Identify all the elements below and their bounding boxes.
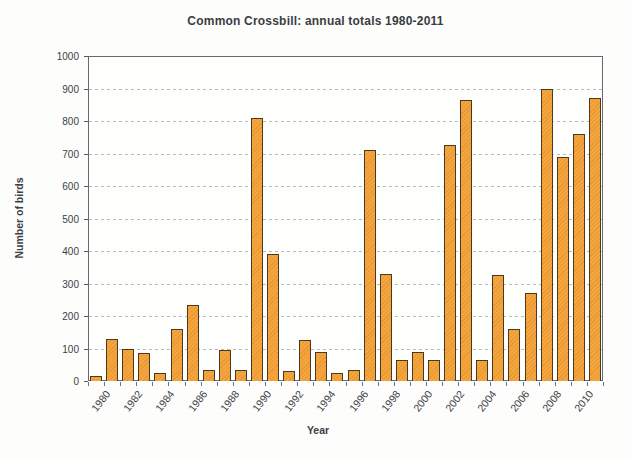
bar-1983 bbox=[138, 353, 150, 381]
y-axis-tick-label-900: 900 bbox=[39, 84, 79, 95]
bar-1994 bbox=[315, 352, 327, 381]
x-tick bbox=[426, 382, 427, 386]
bar-2000 bbox=[412, 352, 424, 381]
x-tick bbox=[249, 382, 250, 386]
x-tick bbox=[539, 382, 540, 386]
y-tick-900 bbox=[84, 89, 88, 90]
bar-2005 bbox=[492, 275, 504, 381]
x-tick bbox=[88, 382, 89, 386]
x-tick bbox=[120, 382, 121, 386]
x-tick bbox=[442, 382, 443, 386]
x-tick bbox=[217, 382, 218, 386]
gridline-900 bbox=[89, 89, 602, 90]
x-tick bbox=[104, 382, 105, 386]
x-tick bbox=[378, 382, 379, 386]
x-tick bbox=[136, 382, 137, 386]
x-tick bbox=[152, 382, 153, 386]
bar-1980 bbox=[90, 376, 102, 381]
y-tick-100 bbox=[84, 349, 88, 350]
y-axis-tick-label-0: 0 bbox=[39, 376, 79, 387]
gridline-400 bbox=[89, 251, 602, 252]
bar-1982 bbox=[122, 349, 134, 382]
x-tick bbox=[474, 382, 475, 386]
y-tick-800 bbox=[84, 121, 88, 122]
x-tick bbox=[362, 382, 363, 386]
x-tick bbox=[265, 382, 266, 386]
x-tick bbox=[523, 382, 524, 386]
y-tick-400 bbox=[84, 251, 88, 252]
x-tick bbox=[490, 382, 491, 386]
bar-1999 bbox=[396, 360, 408, 381]
bar-1991 bbox=[267, 254, 279, 381]
bar-2009 bbox=[557, 157, 569, 381]
x-tick bbox=[313, 382, 314, 386]
y-axis-tick-label-600: 600 bbox=[39, 181, 79, 192]
bar-1997 bbox=[364, 150, 376, 381]
bar-1992 bbox=[283, 371, 295, 381]
y-tick-200 bbox=[84, 316, 88, 317]
x-tick bbox=[571, 382, 572, 386]
bar-1989 bbox=[235, 370, 247, 381]
y-axis-tick-label-1000: 1000 bbox=[39, 51, 79, 62]
bar-2001 bbox=[428, 360, 440, 381]
y-axis-title: Number of birds bbox=[13, 158, 27, 278]
y-tick-1000 bbox=[84, 56, 88, 57]
bar-2002 bbox=[444, 145, 456, 381]
bar-1988 bbox=[219, 350, 231, 381]
bar-2003 bbox=[460, 100, 472, 381]
scanned-bar-chart-figure: Common Crossbill: annual totals 1980-201… bbox=[0, 0, 631, 460]
x-tick bbox=[233, 382, 234, 386]
x-tick bbox=[329, 382, 330, 386]
y-tick-300 bbox=[84, 284, 88, 285]
gridline-500 bbox=[89, 219, 602, 220]
bar-1985 bbox=[171, 329, 183, 381]
bar-1993 bbox=[299, 340, 311, 381]
x-tick bbox=[297, 382, 298, 386]
x-tick bbox=[394, 382, 395, 386]
x-tick bbox=[168, 382, 169, 386]
gridline-300 bbox=[89, 284, 602, 285]
y-axis-tick-label-500: 500 bbox=[39, 214, 79, 225]
bar-2007 bbox=[525, 293, 537, 381]
bar-2008 bbox=[541, 89, 553, 382]
bar-1990 bbox=[251, 118, 263, 381]
y-axis-tick-label-700: 700 bbox=[39, 149, 79, 160]
x-axis-title: Year bbox=[258, 424, 378, 436]
chart-title: Common Crossbill: annual totals 1980-201… bbox=[0, 14, 631, 28]
y-axis-tick-label-800: 800 bbox=[39, 116, 79, 127]
x-tick bbox=[603, 382, 604, 386]
y-tick-700 bbox=[84, 154, 88, 155]
bar-1981 bbox=[106, 339, 118, 381]
y-axis-tick-label-200: 200 bbox=[39, 311, 79, 322]
bar-2010 bbox=[573, 134, 585, 381]
bar-1984 bbox=[154, 373, 166, 381]
gridline-800 bbox=[89, 121, 602, 122]
x-tick bbox=[587, 382, 588, 386]
gridline-600 bbox=[89, 186, 602, 187]
x-tick bbox=[281, 382, 282, 386]
bar-2004 bbox=[476, 360, 488, 381]
x-tick bbox=[555, 382, 556, 386]
y-axis-tick-label-400: 400 bbox=[39, 246, 79, 257]
bar-1986 bbox=[187, 305, 199, 381]
bar-2006 bbox=[508, 329, 520, 381]
y-tick-600 bbox=[84, 186, 88, 187]
y-axis-tick-label-300: 300 bbox=[39, 279, 79, 290]
y-tick-500 bbox=[84, 219, 88, 220]
x-tick bbox=[410, 382, 411, 386]
bar-1996 bbox=[348, 370, 360, 381]
y-axis-tick-label-100: 100 bbox=[39, 344, 79, 355]
bar-1995 bbox=[331, 373, 343, 381]
gridline-700 bbox=[89, 154, 602, 155]
x-tick bbox=[201, 382, 202, 386]
x-tick bbox=[185, 382, 186, 386]
bar-1987 bbox=[203, 370, 215, 381]
bar-2011 bbox=[589, 98, 601, 381]
x-tick bbox=[506, 382, 507, 386]
x-tick bbox=[346, 382, 347, 386]
bar-1998 bbox=[380, 274, 392, 381]
x-tick bbox=[458, 382, 459, 386]
